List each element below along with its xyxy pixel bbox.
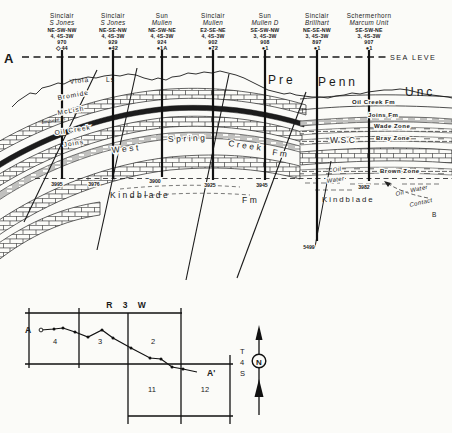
spring-label: Spring <box>168 133 208 144</box>
fault-2 <box>97 68 137 250</box>
section-4-label: 4 <box>53 337 57 346</box>
section-2-label: 2 <box>151 337 155 346</box>
section-3-label: 3 <box>98 337 102 346</box>
kindblade-top-band-right <box>300 148 452 165</box>
map-a-label: A <box>25 325 31 335</box>
pre-label: Pre <box>268 73 296 87</box>
range-label: R 3 W <box>106 300 150 310</box>
oil-creek-label: Oil Creek <box>54 123 91 136</box>
well-td-7: 3982 <box>358 184 370 190</box>
fm-lower-label: Fm <box>242 195 259 205</box>
joins-fm-label: Joins Fm <box>368 112 398 118</box>
fm-west-spring-label: Fm <box>272 147 291 159</box>
township-t: T <box>240 347 245 356</box>
viola-label: Viola <box>69 76 89 85</box>
sea-level-label: SEA LEVE <box>390 53 436 62</box>
owc-label-line2: Contact <box>409 197 433 208</box>
owc-label-line1: Oil - Water <box>395 184 429 197</box>
bray-zone-label: Bray Zone <box>376 135 410 141</box>
well-td-6: 5499 <box>303 244 315 250</box>
section-11-label: 11 <box>148 385 156 394</box>
brown-zone-band <box>300 167 452 176</box>
section-12-label: 12 <box>201 385 209 394</box>
cross-section-and-map: A SEA LEVE <box>0 0 452 433</box>
north-arrow-tail-icon <box>255 379 264 397</box>
west-label: West <box>111 142 141 155</box>
township-s: S <box>240 369 245 378</box>
well-td-1: 3995 <box>51 181 63 187</box>
section-a-label: A <box>4 51 14 66</box>
fault-3 <box>186 74 229 280</box>
line-start-marker <box>39 328 43 332</box>
township-grid <box>25 308 233 424</box>
well-td-4: 3925 <box>204 182 216 188</box>
unc-label: Unc <box>405 85 435 99</box>
penn-label: Penn <box>318 75 358 89</box>
kindblade-right-label: Kindblade <box>322 195 375 204</box>
kindblade-left-label: Kindblade <box>110 190 170 200</box>
line-of-section <box>41 328 197 372</box>
well-td-2: 3976 <box>88 181 100 187</box>
north-arrowhead-icon <box>256 325 263 340</box>
wsc-label: WSC <box>330 135 357 145</box>
brown-zone-label: Brown Zone <box>380 168 420 174</box>
north-arrow: N <box>252 325 266 415</box>
well-td-5: 3945 <box>256 182 268 188</box>
figure-page: Sinclair S Jones NE-SW-NW 4, 4S-3W 970 ◇… <box>0 0 452 433</box>
oil-creek-fm-label: Oil Creek Fm <box>352 99 395 105</box>
well-td-3: 3900 <box>149 178 161 184</box>
township-4: 4 <box>240 358 244 367</box>
water-label: Water <box>326 175 345 184</box>
map-a-prime-label: A' <box>207 368 215 378</box>
north-n-label: N <box>256 358 262 367</box>
b-label: B <box>432 211 436 218</box>
wade-zone-label: Wade Zone <box>374 123 410 129</box>
viola-ls-label: Ls <box>106 76 115 83</box>
